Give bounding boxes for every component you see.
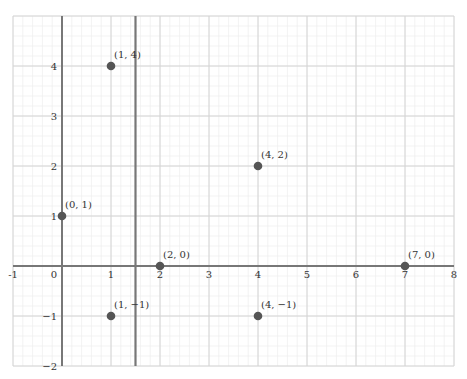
minor-grid xyxy=(13,16,454,366)
point-label: (4, 2) xyxy=(261,149,288,160)
data-point xyxy=(254,312,263,321)
x-tick-label: 2 xyxy=(157,269,163,280)
x-tick-label: 5 xyxy=(304,269,310,280)
data-point xyxy=(107,62,116,71)
major-grid xyxy=(13,16,454,366)
y-tick-label: 3 xyxy=(51,111,57,122)
x-tick-label: 4 xyxy=(255,269,261,280)
x-tick-label: 0 xyxy=(51,269,57,280)
y-tick-label: −2 xyxy=(42,361,57,372)
axes xyxy=(13,16,454,366)
point-label: (4, −1) xyxy=(261,299,296,310)
point-label: (1, 4) xyxy=(114,49,141,60)
x-tick-label: 6 xyxy=(353,269,359,280)
point-label: (1, −1) xyxy=(114,299,149,310)
x-tick-label: -1 xyxy=(8,269,18,280)
data-point xyxy=(156,262,165,271)
data-point xyxy=(254,162,263,171)
y-tick-label: 2 xyxy=(51,161,57,172)
coordinate-plane: -10123456784321−1−2 (1, 4)(4, 2)(0, 1)(2… xyxy=(0,0,467,379)
x-tick-label: 8 xyxy=(451,269,457,280)
point-label: (0, 1) xyxy=(65,199,92,210)
x-tick-label: 1 xyxy=(108,269,114,280)
data-points: (1, 4)(4, 2)(0, 1)(2, 0)(7, 0)(1, −1)(4,… xyxy=(58,49,435,320)
data-point xyxy=(58,212,67,221)
x-tick-label: 3 xyxy=(206,269,212,280)
data-point xyxy=(401,262,410,271)
point-label: (2, 0) xyxy=(163,249,190,260)
y-tick-label: 1 xyxy=(51,211,57,222)
y-tick-label: 4 xyxy=(51,61,57,72)
x-tick-label: 7 xyxy=(402,269,408,280)
point-label: (7, 0) xyxy=(408,249,435,260)
data-point xyxy=(107,312,116,321)
y-tick-label: −1 xyxy=(42,311,57,322)
